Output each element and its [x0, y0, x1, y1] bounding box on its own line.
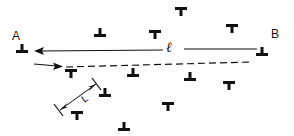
- dislocation-perp-icon: [127, 68, 139, 77]
- dislocation-t-icon: [223, 81, 235, 90]
- diagram-canvas: [0, 0, 294, 136]
- dislocation-t-icon: [162, 102, 174, 111]
- label-point-b: B: [271, 28, 279, 40]
- label-point-a: A: [12, 30, 20, 42]
- dislocation-t-icon: [175, 7, 187, 16]
- dashed-line: [66, 62, 252, 67]
- line-ab-left-segment: [40, 50, 163, 51]
- dislocation-perp-icon: [184, 72, 196, 81]
- line-ab: [34, 47, 257, 55]
- spacing-indicator: [54, 78, 101, 116]
- dislocation-perp-icon: [118, 122, 130, 131]
- dislocation-t-icon: [149, 30, 161, 39]
- dislocation-perp-icon: [94, 28, 106, 37]
- label-line-length: ℓ: [166, 40, 172, 54]
- dislocation-perp-icon: [16, 44, 28, 53]
- dislocation-perp-icon: [256, 47, 268, 56]
- dislocation-diagram: A B ℓ L: [0, 0, 294, 136]
- dislocation-t-icon: [226, 24, 238, 33]
- dislocation-t-icon: [71, 111, 83, 120]
- short-arrow: [34, 63, 63, 71]
- dislocation-t-icon: [65, 69, 77, 78]
